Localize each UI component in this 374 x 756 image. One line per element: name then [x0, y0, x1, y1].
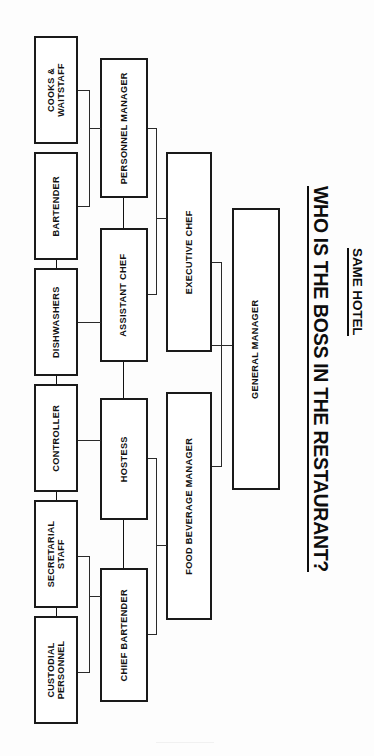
org-node-label: FOOD BEVERAGE MANAGER — [184, 438, 195, 575]
connector-chief-bartender-spine — [89, 556, 90, 672]
org-node-label: HOSTESS — [119, 436, 130, 482]
connector-spine-to-chief-bartender — [148, 634, 157, 635]
connector-spine-to-hostess — [148, 458, 157, 459]
org-node-chief-bartender: CHIEF BARTENDER — [100, 568, 148, 702]
org-node-label: CONTROLLER — [51, 405, 62, 472]
org-node-label: BARTENDER — [51, 176, 62, 236]
org-node-personnel-manager: PERSONNEL MANAGER — [100, 58, 148, 198]
org-node-cooks-waitstaff: COOKS & WAITSTAFF — [34, 36, 78, 144]
org-node-label: ASSISTANT CHEF — [119, 253, 130, 336]
org-node-executive-chef: EXECUTIVE CHEF — [166, 152, 212, 352]
connector-spine-to-secretarial-staff — [78, 556, 90, 557]
org-node-label: EXECUTIVE CHEF — [184, 210, 195, 294]
org-node-label: CHIEF BARTENDER — [119, 589, 130, 681]
connector-spine-to-personnel-manager — [148, 128, 157, 129]
connector-secretarial-to-custodial — [56, 608, 57, 616]
connector-chief-bartender-to-spine — [89, 596, 101, 597]
page-subtitle: SAME HOTEL — [349, 248, 367, 336]
connector-food-beverage-to-spine — [156, 545, 167, 546]
org-node-label: CUSTODIAL PERSONNEL — [46, 641, 66, 700]
connector-gm-spine — [221, 262, 222, 467]
org-node-controller: CONTROLLER — [34, 384, 78, 492]
org-node-custodial-personnel: CUSTODIAL PERSONNEL — [34, 616, 78, 724]
connector-personnel-manager-to-spine — [89, 128, 101, 129]
org-node-label: DISHWASHERS — [51, 286, 62, 358]
connector-assistant-chef-to-hostess — [123, 362, 124, 398]
connector-dishwashers-to-controller — [56, 376, 57, 384]
page-subtitle-text: SAME HOTEL — [347, 248, 365, 336]
connector-spine-to-assistant-chef — [148, 294, 157, 295]
connector-personnel-manager-spine — [89, 90, 90, 206]
connector-spine-to-custodial-personnel — [78, 672, 90, 673]
org-node-label: COOKS & WAITSTAFF — [46, 63, 66, 117]
org-node-label: GENERAL MANAGER — [251, 299, 262, 398]
org-chart-page: GENERAL MANAGER EXECUTIVE CHEF FOOD BEVE… — [0, 0, 374, 756]
org-node-secretarial-staff: SECRETARIAL STAFF — [34, 500, 78, 608]
connector-food-beverage-spine — [156, 458, 157, 635]
connector-spine-to-bartender — [78, 206, 90, 207]
org-node-general-manager: GENERAL MANAGER — [232, 208, 280, 490]
org-node-label: PERSONNEL MANAGER — [119, 72, 130, 184]
connector-executive-chef-spine — [156, 128, 157, 295]
connector-personnel-to-assistant-chef — [123, 198, 124, 228]
org-node-food-beverage-manager: FOOD BEVERAGE MANAGER — [166, 392, 212, 620]
connector-bartender-to-dishwashers — [56, 260, 57, 268]
org-node-hostess: HOSTESS — [100, 398, 148, 520]
org-node-dishwashers: DISHWASHERS — [34, 268, 78, 376]
connector-hostess-to-chief-bartender — [123, 520, 124, 568]
org-node-assistant-chef: ASSISTANT CHEF — [100, 228, 148, 362]
page-title-text: WHO IS THE BOSS IN THE RESTAURANT? — [307, 186, 332, 572]
org-node-label: SECRETARIAL STAFF — [46, 521, 66, 588]
connector-executive-chef-to-spine — [156, 218, 167, 219]
connector-hostess-to-controller — [78, 440, 101, 441]
connector-spine-to-cooks-waitstaff — [78, 90, 90, 91]
connector-assistant-chef-to-dishwashers — [78, 322, 101, 323]
scan-artifact — [156, 742, 214, 743]
page-title: WHO IS THE BOSS IN THE RESTAURANT? — [309, 186, 332, 572]
org-node-bartender: BARTENDER — [34, 152, 78, 260]
connector-spine-to-food-beverage — [212, 466, 222, 467]
connector-gm-to-spine — [212, 345, 232, 346]
connector-spine-to-executive-chef — [212, 262, 222, 263]
connector-controller-to-secretarial — [56, 492, 57, 500]
